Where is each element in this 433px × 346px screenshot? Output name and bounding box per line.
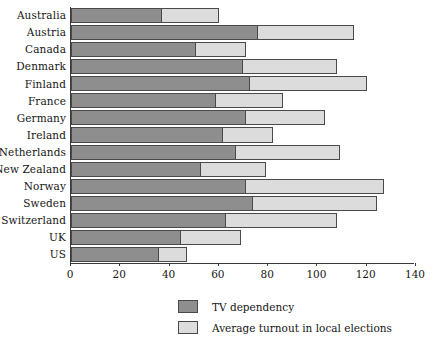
bar-row bbox=[71, 178, 415, 195]
stacked-bar bbox=[71, 76, 367, 91]
bar-segment-tv-dependency bbox=[72, 180, 245, 193]
stacked-bar bbox=[71, 247, 187, 262]
legend-swatch bbox=[178, 321, 198, 334]
x-tick-mark bbox=[70, 263, 71, 266]
bar-segment-average-turnout bbox=[257, 26, 354, 39]
x-tick-label: 100 bbox=[306, 268, 326, 280]
category-axis-labels: AustraliaAustriaCanadaDenmarkFinlandFran… bbox=[0, 7, 66, 263]
chart-page: AustraliaAustriaCanadaDenmarkFinlandFran… bbox=[0, 0, 433, 346]
bar-row bbox=[71, 41, 415, 58]
stacked-bar bbox=[71, 179, 384, 194]
bar-row bbox=[71, 212, 415, 229]
bar-segment-tv-dependency bbox=[72, 163, 200, 176]
bar-segment-tv-dependency bbox=[72, 77, 249, 90]
bar-segment-average-turnout bbox=[252, 197, 376, 210]
bar-segment-average-turnout bbox=[235, 146, 339, 159]
category-label: UK bbox=[0, 229, 66, 246]
bar-segment-average-turnout bbox=[215, 94, 282, 107]
bar-segment-tv-dependency bbox=[72, 197, 252, 210]
bar-row bbox=[71, 161, 415, 178]
chart-legend: TV dependencyAverage turnout in local el… bbox=[178, 296, 428, 338]
bar-segment-average-turnout bbox=[200, 163, 265, 176]
chart-plot-area: AustraliaAustriaCanadaDenmarkFinlandFran… bbox=[0, 0, 433, 290]
legend-label: Average turnout in local elections bbox=[212, 322, 392, 334]
bar-segment-average-turnout bbox=[249, 77, 365, 90]
x-tick-mark bbox=[218, 263, 219, 266]
bar-rows bbox=[71, 7, 415, 263]
stacked-bar bbox=[71, 230, 241, 245]
category-label: France bbox=[0, 92, 66, 109]
bar-row bbox=[71, 246, 415, 263]
bar-segment-average-turnout bbox=[158, 248, 186, 261]
category-label: Germany bbox=[0, 109, 66, 126]
stacked-bar bbox=[71, 8, 219, 23]
bar-segment-tv-dependency bbox=[72, 9, 161, 22]
bar-segment-average-turnout bbox=[180, 231, 240, 244]
bar-segment-tv-dependency bbox=[72, 248, 158, 261]
bar-row bbox=[71, 92, 415, 109]
x-tick-mark bbox=[169, 263, 170, 266]
bar-row bbox=[71, 126, 415, 143]
x-tick-label: 40 bbox=[162, 268, 175, 280]
bar-row bbox=[71, 58, 415, 75]
category-label: Denmark bbox=[0, 58, 66, 75]
bar-segment-tv-dependency bbox=[72, 94, 215, 107]
category-label: Austria bbox=[0, 24, 66, 41]
bar-row bbox=[71, 109, 415, 126]
category-label: Norway bbox=[0, 178, 66, 195]
stacked-bar bbox=[71, 196, 377, 211]
bar-segment-tv-dependency bbox=[72, 26, 257, 39]
bar-segment-tv-dependency bbox=[72, 146, 235, 159]
x-tick-mark bbox=[267, 263, 268, 266]
x-tick-label: 140 bbox=[405, 268, 425, 280]
stacked-bar bbox=[71, 110, 325, 125]
stacked-bar bbox=[71, 162, 266, 177]
bar-segment-tv-dependency bbox=[72, 43, 195, 56]
category-label: Ireland bbox=[0, 126, 66, 143]
bar-segment-tv-dependency bbox=[72, 111, 245, 124]
x-tick-mark bbox=[366, 263, 367, 266]
bar-row bbox=[71, 229, 415, 246]
bar-segment-tv-dependency bbox=[72, 214, 225, 227]
stacked-bar bbox=[71, 25, 354, 40]
stacked-bar bbox=[71, 213, 337, 228]
bar-segment-tv-dependency bbox=[72, 60, 242, 73]
bar-row bbox=[71, 144, 415, 161]
bar-row bbox=[71, 75, 415, 92]
stacked-bar bbox=[71, 127, 273, 142]
bar-segment-average-turnout bbox=[225, 214, 336, 227]
bar-segment-average-turnout bbox=[245, 111, 324, 124]
stacked-bar bbox=[71, 93, 283, 108]
x-tick-label: 80 bbox=[260, 268, 273, 280]
bar-row bbox=[71, 195, 415, 212]
bar-segment-average-turnout bbox=[161, 9, 218, 22]
bars-plot-region bbox=[70, 7, 415, 263]
legend-item: TV dependency bbox=[178, 296, 428, 317]
category-label: Switzerland bbox=[0, 212, 66, 229]
category-label: New Zealand bbox=[0, 161, 66, 178]
bar-segment-tv-dependency bbox=[72, 231, 180, 244]
x-tick-label: 120 bbox=[356, 268, 376, 280]
stacked-bar bbox=[71, 42, 246, 57]
category-label: US bbox=[0, 246, 66, 263]
stacked-bar bbox=[71, 145, 340, 160]
bar-row bbox=[71, 24, 415, 41]
x-tick-mark bbox=[415, 263, 416, 266]
bar-row bbox=[71, 7, 415, 24]
legend-item: Average turnout in local elections bbox=[178, 317, 428, 338]
category-label: Canada bbox=[0, 41, 66, 58]
category-label: Australia bbox=[0, 7, 66, 24]
bar-segment-average-turnout bbox=[195, 43, 245, 56]
legend-swatch bbox=[178, 300, 198, 313]
category-label: Netherlands bbox=[0, 144, 66, 161]
bar-segment-tv-dependency bbox=[72, 128, 222, 141]
stacked-bar bbox=[71, 59, 337, 74]
bar-segment-average-turnout bbox=[245, 180, 383, 193]
x-axis-line bbox=[70, 263, 414, 264]
x-tick-label: 20 bbox=[113, 268, 126, 280]
x-tick-label: 60 bbox=[211, 268, 224, 280]
category-label: Sweden bbox=[0, 195, 66, 212]
legend-label: TV dependency bbox=[212, 301, 294, 313]
x-tick-mark bbox=[316, 263, 317, 266]
bar-segment-average-turnout bbox=[242, 60, 336, 73]
